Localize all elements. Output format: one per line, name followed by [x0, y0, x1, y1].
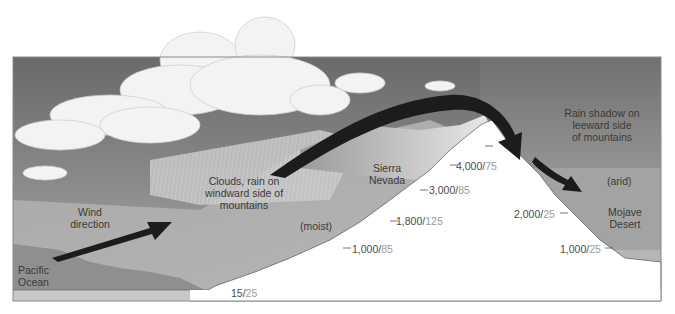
- pacific-ocean-label: Pacific Ocean: [18, 264, 49, 288]
- sierra-nevada-label: Sierra Nevada: [362, 162, 412, 186]
- label-line: Clouds, rain on: [184, 175, 304, 187]
- rainfall-value: 25: [543, 208, 555, 220]
- diagram-canvas: [0, 0, 675, 314]
- rainfall-value: 85: [458, 184, 470, 196]
- wind-direction-label: Wind direction: [60, 206, 120, 230]
- elevation-value: 15: [231, 287, 243, 299]
- elevation-marker: 1,000/25: [560, 243, 601, 255]
- elevation-marker: 4,000/75: [456, 160, 497, 172]
- label-line: of mountains: [552, 131, 652, 143]
- rainfall-value: 75: [485, 160, 497, 172]
- label-line: windward side of: [184, 187, 304, 199]
- rain-shadow-diagram: Clouds, rain on windward side of mountai…: [0, 0, 675, 314]
- label-line: Pacific: [18, 264, 49, 276]
- elevation-value: 1,800: [396, 215, 422, 227]
- elevation-marker: 15/25: [231, 287, 257, 299]
- label-line: Wind: [60, 206, 120, 218]
- elevation-value: 3,000: [429, 184, 455, 196]
- clouds-rain-label: Clouds, rain on windward side of mountai…: [184, 175, 304, 211]
- rainfall-value: 85: [381, 243, 393, 255]
- elevation-value: 4,000: [456, 160, 482, 172]
- rainfall-value: 25: [246, 287, 258, 299]
- label-line: Desert: [600, 218, 650, 230]
- label-line: Rain shadow on: [552, 107, 652, 119]
- label-line: Ocean: [18, 276, 49, 288]
- mojave-desert-label: Mojave Desert: [600, 206, 650, 230]
- arid-label: (arid): [607, 175, 632, 187]
- label-line: Mojave: [600, 206, 650, 218]
- rainfall-value: 25: [589, 243, 601, 255]
- label-line: mountains: [184, 199, 304, 211]
- elevation-value: 1,000: [352, 243, 378, 255]
- elevation-marker: 2,000/25: [514, 208, 555, 220]
- label-line: leeward side: [552, 119, 652, 131]
- moist-label: (moist): [300, 220, 332, 232]
- elevation-value: 2,000: [514, 208, 540, 220]
- rain-shadow-label: Rain shadow on leeward side of mountains: [552, 107, 652, 143]
- elevation-marker: 3,000/85: [429, 184, 470, 196]
- rainfall-value: 125: [425, 215, 443, 227]
- label-line: Nevada: [362, 174, 412, 186]
- mountain-base: [190, 290, 661, 301]
- elevation-marker: 1,800/125: [396, 215, 443, 227]
- label-line: Sierra: [362, 162, 412, 174]
- ocean-floor: [13, 290, 213, 301]
- elevation-value: 1,000: [560, 243, 586, 255]
- elevation-marker: 1,000/85: [352, 243, 393, 255]
- label-line: direction: [60, 218, 120, 230]
